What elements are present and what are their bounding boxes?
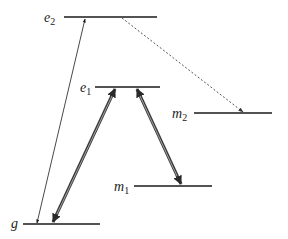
transition-g-e2 xyxy=(37,19,85,223)
level-label-g: g xyxy=(11,216,18,231)
thin-arrow-g-e2 xyxy=(37,19,85,223)
level-e2: e2 xyxy=(44,10,157,27)
transition-e1-m1 xyxy=(137,89,181,184)
level-label-e2: e2 xyxy=(44,10,55,27)
level-m1: m1 xyxy=(114,179,212,196)
level-label-m1: m1 xyxy=(114,179,129,196)
level-e1: e1 xyxy=(80,80,160,97)
level-label-e1: e1 xyxy=(80,80,91,97)
double-arrow-g-e1-inner xyxy=(57,96,112,214)
energy-level-diagram: e2 e1 m2 m1 g xyxy=(0,0,288,239)
level-m2: m2 xyxy=(172,106,272,123)
transition-g-e1 xyxy=(53,89,115,222)
level-label-m2: m2 xyxy=(172,106,187,123)
